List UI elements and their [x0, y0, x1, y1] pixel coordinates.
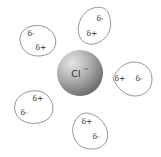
water-top-delta-positive: δ+	[87, 29, 98, 38]
water-molecule-bottom-left: δ+ δ-	[15, 91, 53, 124]
water-molecule-bottom: δ+ δ-	[73, 113, 108, 149]
water-right-delta-positive: δ+	[115, 74, 126, 83]
water-top-delta-negative: δ-	[96, 14, 104, 23]
chloride-ion-symbol: Cl	[71, 68, 80, 79]
water-molecule-right: δ+ δ-	[113, 62, 152, 96]
diagram-canvas: δ- δ+ δ- δ+ δ+ δ- δ+ δ- δ+ δ-	[0, 0, 161, 157]
chloride-ion-charge: −	[83, 65, 88, 73]
water-molecule-top: δ- δ+	[78, 7, 110, 44]
water-bottom-delta-positive: δ+	[82, 117, 93, 126]
water-bottom-delta-negative: δ-	[92, 132, 100, 141]
water-top-outline	[78, 7, 110, 44]
water-bottom-left-delta-negative: δ-	[20, 108, 28, 117]
chloride-ion: Cl −	[57, 50, 103, 96]
water-top-left-delta-positive: δ+	[36, 43, 47, 52]
water-top-left-delta-negative: δ-	[27, 29, 35, 38]
water-molecule-top-left: δ- δ+	[20, 26, 56, 57]
water-bottom-left-delta-positive: δ+	[33, 94, 44, 103]
hydration-diagram: δ- δ+ δ- δ+ δ+ δ- δ+ δ- δ+ δ-	[0, 0, 161, 157]
water-right-delta-negative: δ-	[135, 74, 143, 83]
